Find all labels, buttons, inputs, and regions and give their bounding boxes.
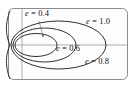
- label-e08-eq: =: [89, 56, 98, 66]
- label-e04-value: 0.4: [38, 8, 49, 18]
- label-e06-value: 0.6: [69, 43, 80, 53]
- label-e10-value: 1.0: [99, 16, 110, 26]
- conic-sections-figure: e = 0.4 e = 1.0 e = 0.6 e = 0.8: [0, 0, 137, 89]
- label-e04-eq: =: [29, 8, 38, 18]
- label-e10-eq: =: [90, 16, 99, 26]
- label-eccentricity-04: e = 0.4: [25, 9, 49, 18]
- label-eccentricity-06: e = 0.6: [56, 44, 80, 53]
- label-e06-eq: =: [60, 43, 69, 53]
- label-eccentricity-08: e = 0.8: [85, 57, 109, 66]
- leader-dot-e04: [42, 35, 44, 37]
- label-eccentricity-10: e = 1.0: [86, 17, 110, 26]
- label-e08-value: 0.8: [98, 56, 109, 66]
